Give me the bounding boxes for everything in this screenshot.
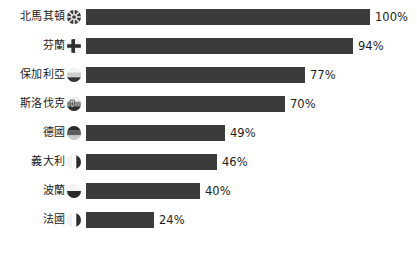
bar [86, 183, 200, 199]
category-label: 保加利亞 [0, 67, 65, 83]
bar [86, 125, 225, 141]
bar-row: 斯洛伐克70% [0, 96, 417, 112]
category-label: 北馬其頓 [0, 9, 65, 25]
flag-germany-icon [67, 126, 81, 140]
flag-france-icon [67, 213, 81, 227]
category-label: 斯洛伐克 [0, 96, 65, 112]
flag-bulgaria-icon [67, 68, 81, 82]
bar-value-label: 70% [290, 96, 316, 112]
flag-poland-icon [67, 184, 81, 198]
category-label: 芬蘭 [0, 38, 65, 54]
bar [86, 96, 285, 112]
bar-value-label: 46% [222, 154, 248, 170]
bar [86, 212, 154, 228]
bar-value-label: 49% [230, 125, 256, 141]
bar-row: 波蘭40% [0, 183, 417, 199]
category-label: 法國 [0, 212, 65, 228]
category-label: 義大利 [0, 154, 65, 170]
category-label: 德國 [0, 125, 65, 141]
flag-finland-icon [67, 39, 81, 53]
bar-value-label: 40% [205, 183, 231, 199]
bar-value-label: 94% [358, 38, 384, 54]
bar [86, 9, 370, 25]
flag-slovakia-icon [67, 97, 81, 111]
bar-row: 德國49% [0, 125, 417, 141]
bar-row: 法國24% [0, 212, 417, 228]
flag-north-macedonia-icon [67, 10, 81, 24]
flag-italy-icon [67, 155, 81, 169]
bar-row: 芬蘭94% [0, 38, 417, 54]
bar [86, 67, 305, 83]
category-label: 波蘭 [0, 183, 65, 199]
bar [86, 38, 353, 54]
bar [86, 154, 217, 170]
bar-value-label: 100% [375, 9, 408, 25]
bar-value-label: 77% [310, 67, 336, 83]
bar-row: 北馬其頓100% [0, 9, 417, 25]
bar-value-label: 24% [159, 212, 185, 228]
bar-row: 義大利46% [0, 154, 417, 170]
bar-row: 保加利亞77% [0, 67, 417, 83]
horizontal-bar-chart: 北馬其頓100%芬蘭94%保加利亞77%斯洛伐克70%德國49%義大利46%波蘭… [0, 0, 417, 253]
